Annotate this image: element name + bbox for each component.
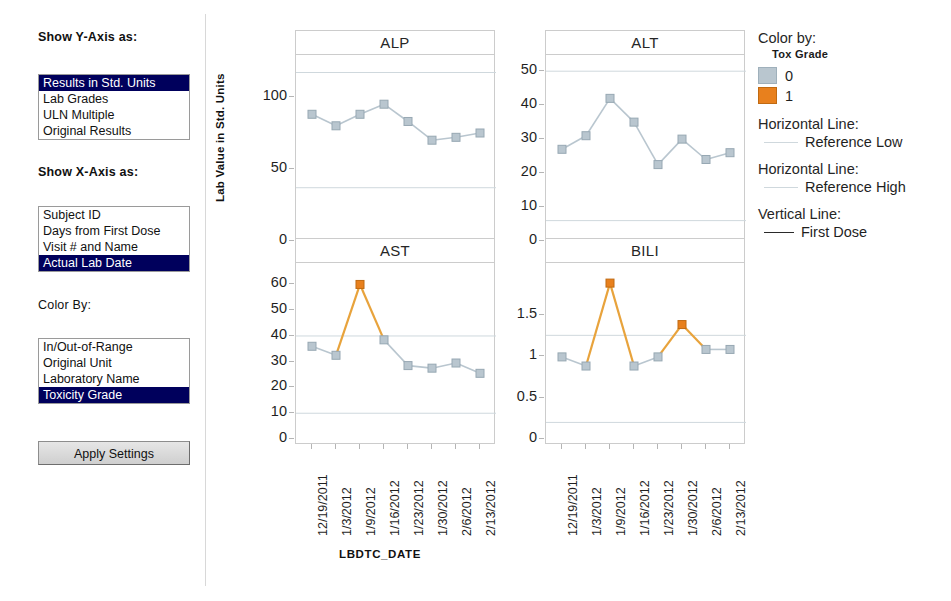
y-tick-label: 0.5 (485, 388, 537, 404)
series-segment (336, 284, 360, 355)
panel-header: BILI (545, 238, 745, 262)
y-tick-label: 0 (485, 429, 537, 445)
data-point-marker[interactable] (356, 110, 364, 118)
y-tick-label: 40 (485, 95, 537, 111)
data-point-marker[interactable] (356, 280, 364, 288)
y-tick-label: 60 (235, 274, 287, 290)
data-point-marker[interactable] (332, 122, 340, 130)
data-point-marker[interactable] (308, 110, 316, 118)
legend-line-block: Horizontal Line:Reference High (758, 161, 948, 195)
data-point-marker[interactable] (452, 359, 460, 367)
legend-swatch-icon (758, 67, 777, 84)
data-point-marker[interactable] (630, 362, 638, 370)
panel-header: ALP (295, 30, 495, 54)
legend-grade-value: 0 (785, 68, 793, 84)
legend-grade-value: 1 (785, 88, 793, 104)
y-tick-label: 50 (235, 159, 287, 175)
data-point-marker[interactable] (428, 136, 436, 144)
y-tick-mark (539, 355, 544, 356)
y-tick-mark (539, 70, 544, 71)
data-point-marker[interactable] (726, 149, 734, 157)
series-segment (586, 283, 610, 366)
y-tick-mark (539, 206, 544, 207)
y-tick-label: 1 (485, 346, 537, 362)
x-tick-label: 1/9/2012 (614, 487, 628, 536)
x-tick-label: 1/16/2012 (388, 480, 402, 536)
y-tick-mark (539, 172, 544, 173)
x-tick-label: 1/30/2012 (686, 480, 700, 536)
data-point-marker[interactable] (452, 133, 460, 141)
legend-color-by-heading: Color by: (758, 30, 948, 46)
data-point-marker[interactable] (558, 353, 566, 361)
y-tick-label: 1.5 (485, 305, 537, 321)
legend-grade-item[interactable]: 0 (758, 66, 948, 85)
y-tick-label: 20 (235, 377, 287, 393)
y-tick-mark (289, 361, 294, 362)
data-point-marker[interactable] (702, 155, 710, 163)
data-point-marker[interactable] (654, 161, 662, 169)
data-point-marker[interactable] (428, 364, 436, 372)
legend-line-block: Horizontal Line:Reference Low (758, 116, 948, 150)
x-tick-label: 2/6/2012 (460, 487, 474, 536)
data-point-marker[interactable] (404, 117, 412, 125)
chart-panel-bili: BILI (545, 238, 745, 444)
data-point-marker[interactable] (582, 362, 590, 370)
legend-grade-item[interactable]: 1 (758, 86, 948, 105)
y-axis-title: Lab Value in Std. Units (214, 73, 226, 202)
y-tick-mark (539, 314, 544, 315)
data-point-marker[interactable] (630, 118, 638, 126)
data-point-marker[interactable] (582, 132, 590, 140)
data-point-marker[interactable] (606, 94, 614, 102)
data-point-marker[interactable] (332, 351, 340, 359)
chart-panel-ast: AST (295, 238, 495, 444)
x-tick-label: 12/19/2011 (566, 474, 580, 536)
legend-line-heading: Vertical Line: (758, 206, 948, 222)
y-tick-mark (289, 335, 294, 336)
y-tick-label: 20 (485, 163, 537, 179)
chart-panel-alt: ALT (545, 30, 745, 246)
panel-plot-area (545, 54, 745, 246)
x-tick-label: 2/13/2012 (734, 480, 748, 536)
y-tick-mark (289, 96, 294, 97)
data-point-marker[interactable] (380, 336, 388, 344)
panel-plot-area (545, 262, 745, 444)
y-tick-label: 30 (485, 129, 537, 145)
panel-plot-area (295, 262, 495, 444)
data-point-marker[interactable] (476, 369, 484, 377)
y-tick-label: 30 (235, 352, 287, 368)
y-tick-label: 0 (235, 231, 287, 247)
y-tick-mark (539, 397, 544, 398)
y-tick-mark (289, 438, 294, 439)
legend-color-by-variable: Tox Grade (772, 48, 948, 60)
series-segment (610, 283, 634, 366)
x-tick-label: 2/13/2012 (484, 480, 498, 536)
data-point-marker[interactable] (606, 279, 614, 287)
y-tick-label: 50 (485, 61, 537, 77)
legend-line-label: Reference High (805, 179, 906, 195)
x-axis-title: LBDTC_DATE (0, 548, 760, 560)
y-tick-mark (539, 138, 544, 139)
data-point-marker[interactable] (380, 100, 388, 108)
data-point-marker[interactable] (678, 135, 686, 143)
series-segment (658, 325, 682, 357)
y-tick-label: 10 (485, 197, 537, 213)
data-point-marker[interactable] (308, 342, 316, 350)
y-tick-mark (289, 168, 294, 169)
panel-title: ALT (546, 34, 744, 51)
data-point-marker[interactable] (654, 353, 662, 361)
data-point-marker[interactable] (702, 345, 710, 353)
data-point-marker[interactable] (476, 129, 484, 137)
y-tick-mark (539, 240, 544, 241)
data-point-marker[interactable] (678, 321, 686, 329)
legend-line-label: First Dose (801, 224, 867, 240)
data-point-marker[interactable] (726, 345, 734, 353)
x-tick-label: 2/6/2012 (710, 487, 724, 536)
y-tick-mark (289, 309, 294, 310)
data-point-marker[interactable] (558, 145, 566, 153)
y-tick-label: 50 (235, 300, 287, 316)
panel-header: AST (295, 238, 495, 262)
legend-swatch-icon (758, 87, 777, 104)
data-point-marker[interactable] (404, 362, 412, 370)
y-tick-label: 40 (235, 326, 287, 342)
legend-grade-list: 01 (758, 66, 948, 105)
